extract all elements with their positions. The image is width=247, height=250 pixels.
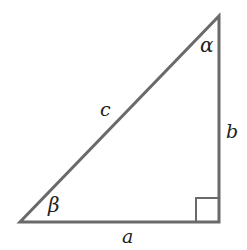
right-triangle-diagram: c b a α β: [0, 0, 247, 250]
right-angle-marker: [196, 198, 219, 222]
label-c: c: [100, 98, 111, 120]
triangle-outline: [20, 16, 219, 222]
label-a: a: [122, 225, 133, 247]
label-alpha: α: [200, 33, 214, 57]
label-beta: β: [47, 193, 60, 217]
label-b: b: [226, 120, 238, 142]
